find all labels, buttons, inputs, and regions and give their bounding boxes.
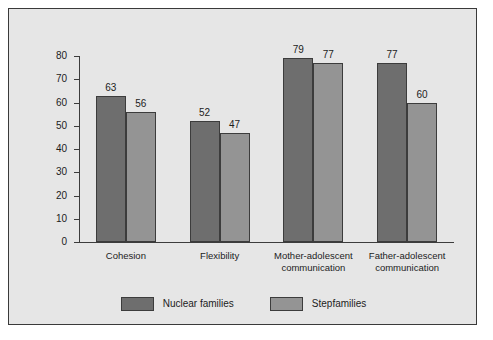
bar bbox=[407, 103, 437, 243]
y-tick-label: 80 bbox=[41, 51, 67, 61]
y-tick-label: 70 bbox=[41, 74, 67, 84]
y-tick-label: 0 bbox=[41, 237, 67, 247]
legend-swatch bbox=[121, 297, 154, 311]
bar bbox=[313, 63, 343, 242]
y-tick-label: 10 bbox=[41, 214, 67, 224]
y-tick-label: 20 bbox=[41, 191, 67, 201]
x-category-label: Father-adolescentcommunication bbox=[352, 250, 462, 273]
bar bbox=[126, 112, 156, 242]
x-axis-line bbox=[79, 242, 454, 243]
bar-value-label: 60 bbox=[407, 90, 437, 100]
bar-value-label: 63 bbox=[96, 83, 126, 93]
y-tick-label: 50 bbox=[41, 121, 67, 131]
legend-item: Nuclear families bbox=[121, 297, 234, 311]
chart-figure: 01020304050607080 6356524779777760 Cohes… bbox=[8, 8, 477, 325]
y-tick-label: 60 bbox=[41, 98, 67, 108]
bar-value-label: 77 bbox=[313, 50, 343, 60]
legend-label: Stepfamilies bbox=[312, 299, 366, 309]
bar-value-label: 56 bbox=[126, 99, 156, 109]
y-tick-label: 40 bbox=[41, 144, 67, 154]
bar-value-label: 52 bbox=[190, 108, 220, 118]
legend-label: Nuclear families bbox=[163, 299, 234, 309]
bar bbox=[96, 96, 126, 242]
bars-layer: 6356524779777760 bbox=[79, 56, 454, 242]
bar bbox=[377, 63, 407, 242]
y-tick-mark bbox=[74, 242, 79, 243]
chart-legend: Nuclear familiesStepfamilies bbox=[9, 297, 478, 311]
y-tick-label: 30 bbox=[41, 167, 67, 177]
bar bbox=[190, 121, 220, 242]
legend-item: Stepfamilies bbox=[270, 297, 366, 311]
bar bbox=[283, 58, 313, 242]
bar-value-label: 79 bbox=[283, 45, 313, 55]
bar-value-label: 47 bbox=[220, 120, 250, 130]
legend-swatch bbox=[270, 297, 303, 311]
bar bbox=[220, 133, 250, 242]
bar-value-label: 77 bbox=[377, 50, 407, 60]
chart-plot-area: 01020304050607080 6356524779777760 Cohes… bbox=[9, 9, 478, 326]
